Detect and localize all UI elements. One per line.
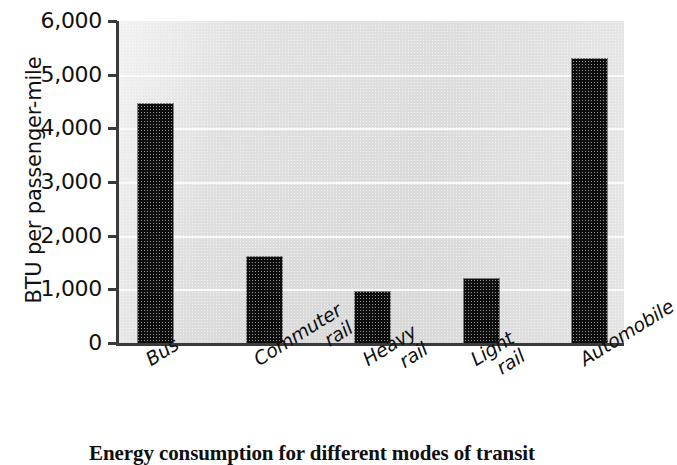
bar	[247, 257, 282, 343]
bar	[138, 104, 173, 343]
y-axis-tick-label: 3,000	[6, 171, 102, 193]
figure-caption: Energy consumption for different modes o…	[0, 441, 624, 465]
gridline	[119, 289, 624, 291]
gridline	[119, 182, 624, 184]
gridline	[119, 236, 624, 238]
y-axis-tick-labels: 01,0002,0003,0004,0005,0006,000	[6, 0, 102, 360]
gridline	[119, 75, 624, 77]
x-axis-tick-labels: BusCommuterrailHeavyrailLightrailAutomob…	[0, 346, 624, 436]
y-axis-tick-label: 2,000	[6, 225, 102, 247]
y-axis-tick-label: 4,000	[6, 117, 102, 139]
y-axis-tick-label: 1,000	[6, 278, 102, 300]
y-axis-tick-label: 6,000	[6, 10, 102, 32]
gridline	[119, 128, 624, 130]
bar	[572, 59, 607, 343]
plot-area	[119, 21, 624, 343]
y-axis-tick-label: 5,000	[6, 64, 102, 86]
